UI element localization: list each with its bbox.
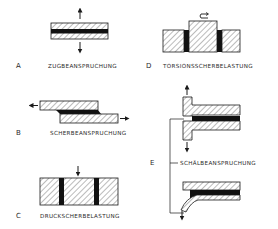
panel-b-caption: SCHERBEANSPRUCHUNG — [50, 130, 126, 136]
panel-c-caption: DRUCKSCHERBELASTUNG — [40, 213, 120, 219]
panel-e-caption: SCHÄLBEANSPRUCHUNG — [180, 160, 256, 166]
panel-e-letter: E — [150, 159, 154, 167]
panel-a-letter: A — [16, 62, 21, 70]
panel-c-compression-joint — [40, 166, 118, 205]
panel-c-letter: C — [16, 212, 21, 220]
panel-d-letter: D — [146, 62, 151, 70]
panel-b-shear-joint — [31, 101, 127, 123]
adhesive-load-types-diagram — [0, 0, 278, 229]
panel-e-peel-joint — [170, 87, 240, 218]
panel-a-caption: ZUGBEANSPRUCHUNG — [48, 63, 117, 69]
panel-d-torsion-joint — [163, 13, 240, 53]
panel-d-caption: TORSIONSSCHERBELASTUNG — [163, 63, 253, 69]
panel-b-letter: B — [16, 129, 21, 137]
panel-a-tensile-joint — [51, 10, 108, 51]
